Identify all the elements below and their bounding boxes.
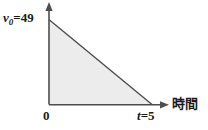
y-intercept-value: 49: [21, 10, 34, 25]
y-intercept-label: v0=49: [3, 11, 34, 27]
y-intercept-equals: =: [13, 10, 20, 25]
x-intercept-equals: =: [141, 108, 148, 123]
x-axis-title: 時間: [172, 97, 198, 110]
x-intercept-label: t=5: [137, 109, 155, 122]
x-axis-arrowhead-icon: [160, 101, 169, 108]
origin-label: 0: [43, 109, 50, 122]
y-axis-arrowhead-icon: [45, 2, 52, 11]
x-intercept-value: 5: [148, 108, 155, 123]
velocity-time-graph-figure: v0=49 0 t=5 時間: [0, 0, 208, 130]
